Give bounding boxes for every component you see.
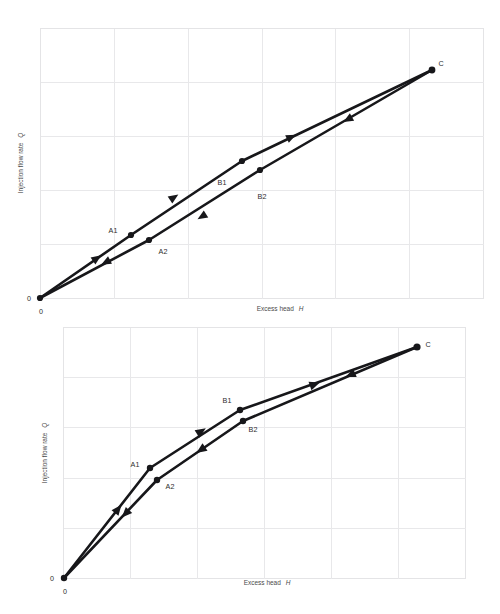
marker-origin-bottom [61, 575, 67, 581]
origin-tick-x-top: 0 [39, 307, 43, 316]
figure-container: A1 A2 B1 B2 C 0 0 Excess head H Injectio… [0, 0, 500, 614]
x-axis-title-symbol-bottom: H [286, 579, 291, 586]
point-label-a2-bottom: A2 [166, 482, 175, 491]
y-axis-title-text-bottom: Injection flow rate [41, 432, 49, 483]
point-label-b2-bottom: B2 [249, 425, 258, 434]
y-axis-title-text-top: Injection flow rate [17, 142, 25, 193]
x-axis-title-text-bottom: Excess head [244, 579, 282, 586]
y-axis-title-symbol-bottom: Q [41, 423, 49, 428]
y-axis-title-top: Injection flow rate Q [17, 133, 25, 193]
x-axis-title-symbol-top: H [299, 305, 304, 312]
point-label-a1-top: A1 [109, 226, 118, 235]
point-label-c-bottom: C [425, 340, 430, 349]
marker-b1-bottom [237, 407, 243, 413]
chart-svg-bottom: A1 A2 B1 B2 C 0 0 Excess head H Injectio… [0, 320, 500, 614]
marker-a1-top [128, 232, 134, 238]
marker-origin-top [37, 295, 43, 301]
origin-tick-y-top: 0 [27, 294, 31, 303]
point-label-a1-bottom: A1 [131, 460, 140, 469]
origin-tick-y-bottom: 0 [50, 574, 54, 583]
marker-a2-bottom [154, 477, 160, 483]
chart-panel-top: A1 A2 B1 B2 C 0 0 Excess head H Injectio… [0, 0, 500, 320]
marker-b2-top [257, 167, 263, 173]
x-axis-title-text-top: Excess head [257, 305, 295, 312]
y-axis-title-symbol-top: Q [17, 133, 25, 138]
point-label-c-top: C [438, 59, 443, 68]
point-label-a2-top: A2 [159, 247, 168, 256]
marker-b2-bottom [240, 418, 246, 424]
marker-c-bottom [413, 343, 420, 350]
point-label-b2-top: B2 [258, 192, 267, 201]
x-axis-title-top: Excess head H [257, 305, 304, 312]
chart-svg-top: A1 A2 B1 B2 C 0 0 Excess head H Injectio… [0, 0, 500, 320]
origin-tick-x-bottom: 0 [63, 587, 67, 596]
x-axis-title-bottom: Excess head H [244, 579, 291, 586]
point-label-b1-bottom: B1 [223, 396, 232, 405]
marker-c-top [429, 67, 436, 74]
marker-a1-bottom [147, 465, 153, 471]
marker-a2-top [146, 237, 152, 243]
marker-b1-top [239, 158, 245, 164]
chart-panel-bottom: A1 A2 B1 B2 C 0 0 Excess head H Injectio… [0, 320, 500, 614]
y-axis-title-bottom: Injection flow rate Q [41, 423, 49, 483]
point-label-b1-top: B1 [218, 178, 227, 187]
